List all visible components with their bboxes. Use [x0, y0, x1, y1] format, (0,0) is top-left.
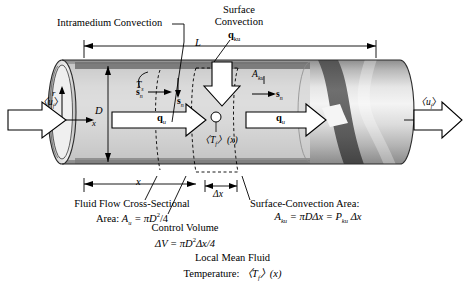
label-s-n-mid: sn: [177, 95, 184, 108]
outlet-velocity-open: 〈u: [416, 96, 431, 107]
caption-surface-area-line2: Aku = πDΔx = Pku Δx: [248, 211, 388, 224]
label-length-L: L: [195, 37, 201, 48]
cs-prefix: Area:: [96, 213, 122, 224]
q-ku-subscript: ku: [234, 35, 241, 42]
label-s-n-right: sn: [276, 88, 283, 101]
label-surface-convection-line2: Convection: [198, 16, 280, 27]
label-distance-x: x: [136, 176, 141, 187]
sa-tail: Δx: [348, 211, 361, 222]
lm-prefix: Temperature:: [184, 268, 242, 279]
caption-control-volume-line1: Control Volume: [120, 222, 250, 233]
cv-prefix: ΔV = πD: [155, 238, 193, 249]
label-intramedium-convection: Intramedium Convection: [57, 17, 162, 28]
lm-T: 〈T: [242, 268, 258, 279]
label-local-mean-temp-inline: 〈Tf〉(x): [200, 132, 238, 147]
leader-surface-convection: [214, 40, 230, 62]
label-inlet-velocity: 〈uf〉: [38, 94, 64, 109]
label-diameter-D: D: [95, 105, 103, 116]
Aku-subscript: ku: [258, 75, 264, 81]
label-q-ku: qku: [228, 29, 240, 42]
caption-cross-section-line1: Fluid Flow Cross-Sectional: [42, 198, 222, 209]
label-A-ku: Aku: [252, 68, 263, 81]
label-outlet-velocity: 〈uf〉: [416, 94, 442, 109]
qu-subscript-left: u: [163, 118, 166, 125]
label-s-n-left: sn: [136, 86, 143, 99]
control-volume-node: [211, 112, 221, 122]
qu-subscript-right: u: [282, 118, 285, 125]
label-surface-convection-line1: Surface: [206, 4, 272, 15]
mean-temp-open: 〈T: [200, 134, 215, 145]
dimension-L: [84, 40, 376, 58]
label-q-u-right: qu: [276, 112, 285, 125]
sa-mid: = πDΔx = P: [287, 211, 342, 222]
cv-tail: Δx/4: [196, 238, 215, 249]
outlet-velocity-close: 〉: [432, 96, 442, 107]
sn-subscript-right: n: [280, 95, 283, 101]
mean-temp-tail: 〉(x): [217, 134, 238, 145]
label-q-u-left: qu: [157, 112, 166, 125]
label-axis-x: x: [92, 118, 96, 128]
inlet-velocity-close: 〉: [54, 96, 64, 107]
caption-surface-area-line1: Surface-Convection Area:: [250, 198, 359, 209]
sn-subscript-left: n: [140, 93, 143, 99]
caption-local-mean-line2: Temperature: 〈Tf〉(x): [145, 265, 320, 281]
caption-local-mean-line1: Local Mean Fluid: [145, 252, 320, 263]
lm-tail: 〉(x): [260, 268, 282, 279]
sn-subscript-mid: n: [181, 102, 184, 108]
inlet-velocity-open: 〈u: [38, 96, 53, 107]
caption-control-volume-line2: ΔV = πD2Δx/4: [120, 236, 250, 249]
